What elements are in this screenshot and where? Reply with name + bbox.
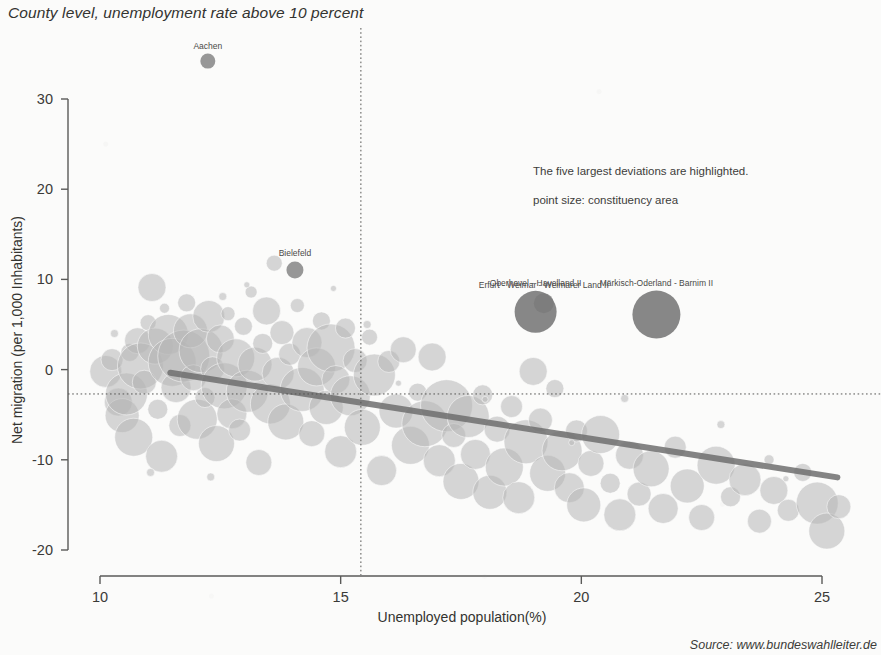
point-label: Aachen: [193, 41, 222, 51]
data-point: [147, 468, 155, 476]
data-point: [689, 505, 715, 531]
data-point: [270, 321, 294, 345]
note-deviations: The five largest deviations are highligh…: [533, 165, 748, 177]
point-label: Oberhavel - Havelland II: [490, 278, 582, 288]
data-point: [633, 451, 669, 487]
data-point: [159, 303, 169, 313]
data-point: [253, 333, 273, 353]
data-point: [362, 329, 378, 345]
data-point: [418, 343, 446, 371]
data-point: [229, 419, 251, 441]
data-point: [344, 409, 380, 445]
scatter-plot: 3020100-10-2010152025 AachenBielefeldErf…: [0, 0, 881, 655]
data-point: [253, 297, 281, 325]
y-tick-label: 20: [37, 181, 53, 197]
data-point: [621, 394, 629, 402]
data-point: [578, 450, 604, 476]
y-tick-label: -10: [32, 452, 53, 468]
data-point: [567, 488, 601, 522]
data-point: [363, 321, 371, 329]
data-point: [219, 293, 227, 301]
x-tick-label: 20: [573, 589, 589, 605]
data-point: [110, 330, 118, 338]
y-axis-title: Net migration (per 1,000 Inhabitants): [9, 216, 25, 444]
y-tick-label: -20: [32, 542, 53, 558]
x-tick-label: 15: [333, 589, 349, 605]
data-point: [330, 285, 336, 291]
data-point: [503, 482, 535, 514]
highlighted-data-point: [632, 291, 680, 339]
data-point: [729, 464, 761, 496]
y-tick-label: 10: [37, 271, 53, 287]
point-label: Bielefeld: [279, 248, 312, 258]
data-point: [290, 299, 304, 313]
data-point: [138, 274, 166, 302]
y-tick-label: 30: [37, 91, 53, 107]
point-labels-layer: AachenBielefeldErfurt - Weimar - Weimare…: [193, 41, 713, 339]
data-point: [482, 396, 488, 402]
data-point: [395, 380, 401, 386]
x-tick-label: 25: [814, 589, 830, 605]
data-point: [178, 294, 196, 312]
note-point-size: point size: constituency area: [533, 194, 678, 206]
highlighted-data-point: [515, 291, 557, 333]
data-point: [148, 399, 168, 419]
highlighted-data-point: [200, 54, 215, 69]
data-point: [519, 357, 547, 385]
data-point: [299, 421, 325, 447]
data-point: [717, 421, 725, 429]
point-label: Märkisch-Oderland - Barnim II: [600, 278, 713, 288]
highlighted-data-point: [286, 261, 303, 278]
data-point: [501, 396, 523, 418]
data-point: [146, 440, 178, 472]
x-tick-label: 10: [92, 589, 108, 605]
x-axis-title: Unemployed population(%): [378, 609, 547, 625]
data-point: [207, 473, 215, 481]
data-point: [569, 440, 575, 446]
data-point: [783, 476, 789, 482]
data-point: [582, 416, 620, 454]
data-point: [244, 282, 250, 288]
data-point: [367, 456, 397, 486]
data-point: [747, 509, 771, 533]
data-point: [335, 318, 355, 338]
data-point: [390, 337, 416, 363]
data-point: [221, 307, 235, 321]
data-point: [600, 473, 620, 493]
data-point: [546, 380, 564, 398]
y-tick-label: 0: [45, 362, 53, 378]
data-point: [827, 495, 851, 519]
source-note: Source: www.bundeswahlleiter.de: [690, 638, 877, 652]
bubbles-layer: [90, 255, 851, 549]
data-point: [234, 317, 252, 335]
data-point: [648, 494, 678, 524]
data-point: [246, 450, 272, 476]
